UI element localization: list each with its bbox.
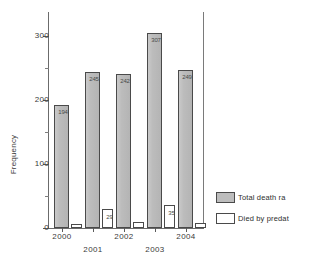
bar-value-label: 242	[118, 78, 132, 85]
x-tick-2003	[155, 228, 156, 232]
bar-value-label: 194	[56, 109, 70, 116]
bar-value-label: 249	[180, 74, 194, 81]
legend-item-total-death-rate[interactable]: Total death ra	[216, 192, 289, 203]
bar-total-2003[interactable]: 307	[147, 33, 162, 228]
bar-total-2004[interactable]: 249	[178, 70, 193, 228]
y-tick-label-300: 300	[19, 31, 49, 40]
y-tick-label-200: 200	[19, 95, 49, 104]
y-axis-label: Frequency	[9, 120, 18, 190]
bar-value-label: 29	[104, 214, 115, 221]
bar-total-2000[interactable]: 194	[54, 105, 69, 228]
legend: Total death ra Died by predat	[216, 192, 289, 234]
bar-total-2002[interactable]: 242	[116, 74, 131, 228]
bar-predators-2004[interactable]	[195, 223, 206, 228]
legend-swatch-icon	[216, 192, 235, 203]
bar-predators-2000[interactable]	[71, 224, 82, 228]
bar-value-label: 35	[166, 210, 177, 217]
bar-chart: Frequency 300 200 100 0 194 245	[0, 0, 314, 268]
x-axis-line	[48, 228, 204, 229]
x-tick-2001	[93, 228, 94, 232]
x-tick-label-2004: 2004	[169, 232, 203, 241]
x-tick-label-2000: 2000	[45, 232, 79, 241]
bar-predators-2003[interactable]: 35	[164, 205, 175, 228]
y-tick-label-0: 0	[19, 223, 49, 232]
bar-predators-2001[interactable]: 29	[102, 209, 113, 228]
legend-label: Died by predat	[238, 214, 289, 223]
legend-item-died-by-predators[interactable]: Died by predat	[216, 213, 289, 224]
plot-area: 194 245 29 242 307	[48, 12, 204, 228]
y-tick-label-100: 100	[19, 159, 49, 168]
bar-value-label: 245	[87, 76, 101, 83]
bar-total-2001[interactable]: 245	[85, 72, 100, 228]
bar-predators-2002[interactable]	[133, 222, 144, 228]
bar-value-label: 307	[149, 37, 163, 44]
x-tick-label-2001: 2001	[76, 245, 110, 254]
x-tick-label-2003: 2003	[138, 245, 172, 254]
legend-swatch-icon	[216, 213, 235, 224]
x-tick-label-2002: 2002	[107, 232, 141, 241]
legend-label: Total death ra	[238, 193, 286, 202]
